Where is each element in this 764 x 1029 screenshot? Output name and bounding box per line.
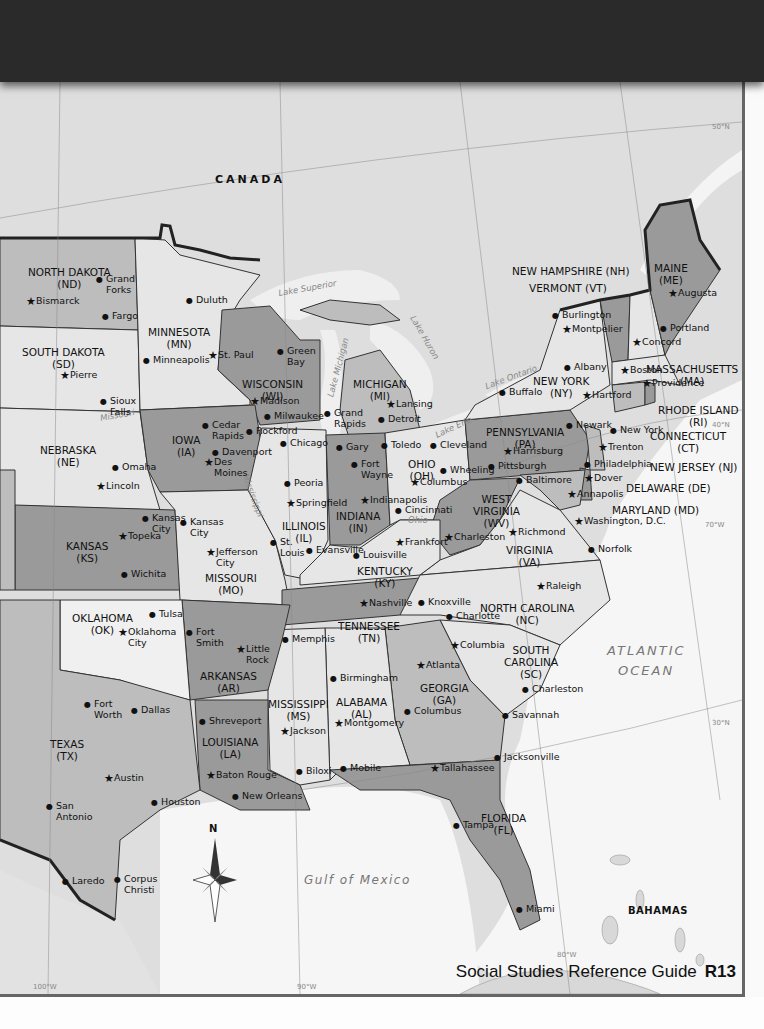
city-label: Albany	[574, 361, 607, 372]
city-dot-icon: ●	[418, 597, 425, 608]
city-dot-icon: ●	[588, 544, 595, 555]
city-dot-icon: ●	[440, 465, 447, 476]
label-state-sc: SOUTH CAROLINA (SC)	[504, 644, 558, 680]
label-gulf-of-mexico: Gulf of Mexico	[304, 875, 411, 886]
capital-star-icon: ★	[668, 288, 678, 299]
capital-star-icon: ★	[286, 498, 296, 509]
city-dot-icon: ●	[324, 408, 331, 419]
city-label: Pittsburgh	[498, 460, 546, 471]
city-dot-icon: ●	[494, 752, 501, 763]
city-dot-icon: ●	[306, 545, 313, 556]
label-lat-30: 30°N	[712, 718, 730, 729]
label-lon-90: 90°W	[297, 982, 316, 993]
city-label: Columbia	[460, 639, 505, 650]
capital-star-icon: ★	[567, 489, 577, 500]
capital-star-icon: ★	[450, 640, 460, 651]
capital-star-icon: ★	[334, 718, 344, 729]
city-dot-icon: ●	[446, 611, 453, 622]
label-state-sd: SOUTH DAKOTA (SD)	[22, 346, 105, 370]
city-label: Nashville	[369, 597, 412, 608]
capital-star-icon: ★	[536, 581, 546, 592]
city-label: Detroit	[388, 413, 421, 424]
city-label: Mobile	[350, 762, 381, 773]
label-state-nj: NEW JERSEY (NJ)	[650, 461, 737, 473]
label-ocean: OCEAN	[618, 665, 674, 676]
city-label: Corpus Christi	[124, 873, 157, 895]
capital-star-icon: ★	[410, 477, 420, 488]
city-dot-icon: ●	[395, 505, 402, 516]
us-east-map	[0, 82, 742, 994]
label-state-ga: GEORGIA (GA)	[420, 682, 469, 706]
city-dot-icon: ●	[566, 420, 573, 431]
label-state-ri: RHODE ISLAND (RI)	[658, 404, 739, 428]
city-label: Atlanta	[426, 659, 460, 670]
footer-guide-title: Social Studies Reference Guide	[456, 962, 697, 981]
city-label: Madison	[260, 395, 299, 406]
capital-star-icon: ★	[208, 350, 218, 361]
capital-star-icon: ★	[642, 378, 652, 389]
city-label: Montpelier	[572, 323, 623, 334]
capital-star-icon: ★	[574, 516, 584, 527]
city-dot-icon: ●	[270, 537, 277, 548]
city-label: Grand Rapids	[334, 407, 366, 429]
city-dot-icon: ●	[610, 425, 617, 436]
label-state-in: INDIANA (IN)	[336, 510, 380, 534]
city-label: Wichita	[131, 568, 166, 579]
label-state-de: DELAWARE (DE)	[626, 482, 711, 494]
city-dot-icon: ●	[46, 801, 53, 812]
city-label: Tulsa	[159, 608, 183, 619]
city-label: Hartford	[592, 389, 632, 400]
city-label: Fort Worth	[94, 698, 122, 720]
city-dot-icon: ●	[131, 705, 138, 716]
capital-star-icon: ★	[444, 532, 454, 543]
footer-page-number: R13	[705, 962, 736, 981]
label-state-vt: VERMONT (VT)	[529, 282, 607, 294]
city-label: Harrisburg	[513, 445, 563, 456]
label-state-ar: ARKANSAS (AR)	[200, 670, 257, 694]
city-label: Philadelphia	[594, 458, 652, 469]
capital-star-icon: ★	[416, 660, 426, 671]
city-dot-icon: ●	[180, 517, 187, 528]
city-dot-icon: ●	[296, 766, 303, 777]
label-state-ms: MISSISSIPPI (MS)	[268, 698, 329, 722]
city-label: Trenton	[608, 441, 644, 452]
label-canada: CANADA	[215, 174, 285, 185]
city-dot-icon: ●	[430, 440, 437, 451]
city-label: Cincinnati	[405, 504, 452, 515]
label-state-mn: MINNESOTA (MN)	[148, 326, 210, 350]
city-dot-icon: ●	[96, 274, 103, 285]
city-label: Lansing	[396, 398, 433, 409]
capital-star-icon: ★	[60, 370, 70, 381]
dark-header-band	[0, 0, 764, 82]
city-label: Miami	[526, 903, 555, 914]
city-label: Jefferson City	[216, 546, 258, 568]
city-label: Pierre	[70, 369, 97, 380]
city-label: Laredo	[72, 875, 105, 886]
city-label: Boston	[630, 364, 663, 375]
city-label: San Antonio	[56, 800, 93, 822]
capital-star-icon: ★	[582, 390, 592, 401]
label-state-tx: TEXAS (TX)	[50, 738, 84, 762]
label-bahamas: BAHAMAS	[628, 905, 688, 916]
capital-star-icon: ★	[598, 442, 608, 453]
city-label: Little Rock	[246, 643, 270, 665]
label-state-mo: MISSOURI (MO)	[205, 572, 257, 596]
city-label: St. Paul	[218, 349, 254, 360]
label-state-tn: TENNESSEE (TN)	[338, 620, 400, 644]
city-label: Peoria	[294, 477, 323, 488]
city-dot-icon: ●	[340, 763, 347, 774]
city-dot-icon: ●	[100, 396, 107, 407]
city-dot-icon: ●	[62, 876, 69, 887]
city-dot-icon: ●	[277, 346, 284, 357]
city-label: Columbus	[420, 476, 467, 487]
capital-star-icon: ★	[96, 481, 106, 492]
city-dot-icon: ●	[584, 459, 591, 470]
capital-star-icon: ★	[430, 763, 440, 774]
city-label: Tampa	[463, 819, 494, 830]
city-label: Montgomery	[344, 717, 404, 728]
label-state-ks: KANSAS (KS)	[66, 540, 108, 564]
city-label: Frankfort	[405, 536, 448, 547]
city-label: Cleveland	[440, 439, 487, 450]
city-label: Milwaukee	[274, 410, 324, 421]
capital-star-icon: ★	[360, 495, 370, 506]
